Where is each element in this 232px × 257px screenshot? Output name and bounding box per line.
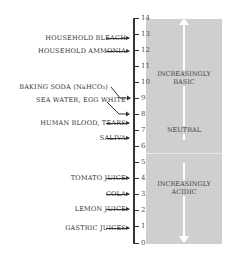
tick [134, 18, 139, 19]
tick-label: 0 [141, 239, 145, 247]
tick-label: 7 [141, 126, 145, 134]
tick-label: 1 [141, 222, 145, 230]
region-acidic: INCREASINGLY ACIDIC [146, 180, 222, 196]
tick [134, 50, 139, 51]
tick [134, 66, 139, 67]
tick [134, 82, 139, 83]
tick [134, 194, 139, 195]
arrow-icon [106, 123, 129, 124]
up-arrow-icon [179, 18, 189, 25]
arrow-icon [106, 38, 129, 39]
arrow-icon [106, 209, 129, 210]
tick [134, 34, 139, 35]
tick-label: 11 [141, 62, 150, 70]
tick-label: 13 [141, 30, 150, 38]
arrow-icon [106, 228, 129, 229]
tick [134, 162, 139, 163]
arrow-icon [106, 178, 129, 179]
region-basic-line1: INCREASINGLY [146, 70, 222, 78]
tick-label: 4 [141, 174, 145, 182]
region-basic-line2: BASIC [171, 78, 196, 86]
tick-label: 8 [141, 110, 145, 118]
tick [134, 130, 139, 131]
diagonal-arrow-icon [106, 101, 132, 117]
region-neutral-label: NEUTRAL [165, 126, 203, 134]
tick [134, 210, 139, 211]
region-basic: INCREASINGLY BASIC [146, 70, 222, 86]
neutral-line [146, 153, 222, 154]
region-acidic-line2: ACIDIC [170, 188, 199, 196]
tick [134, 98, 139, 99]
tick-label: 2 [141, 206, 145, 214]
tick [134, 243, 139, 244]
arrow-icon [106, 194, 129, 195]
tick [134, 114, 139, 115]
arrow-icon [106, 138, 129, 139]
tick [134, 178, 139, 179]
region-acidic-line1: INCREASINGLY [146, 180, 222, 188]
tick-label: 9 [141, 94, 145, 102]
acidic-arrow-shaft [183, 163, 185, 238]
region-neutral: NEUTRAL [146, 126, 222, 134]
tick [134, 226, 139, 227]
tick-label: 6 [141, 142, 145, 150]
tick-label: 3 [141, 190, 145, 198]
down-arrow-icon [179, 236, 189, 243]
tick-label: 5 [141, 158, 145, 166]
label-baking-soda: BAKING SODA (NaHCO₃) [19, 83, 108, 91]
tick-label: 12 [141, 46, 150, 54]
tick-label: 14 [141, 14, 150, 22]
tick [134, 146, 139, 147]
arrow-icon [106, 51, 129, 52]
